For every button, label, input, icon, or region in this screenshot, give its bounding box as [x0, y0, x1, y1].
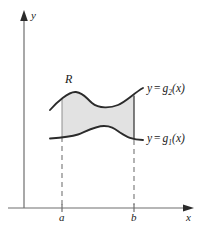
x-axis-label: x [186, 212, 191, 223]
tick-label-b: b [131, 212, 137, 223]
upper-curve-label-arg: (x) [172, 82, 185, 94]
y-axis-arrowhead [20, 10, 28, 21]
y-axis-label: y [31, 10, 36, 21]
region-between-curves-figure: y x a b R y=g2(x) y=g1(x) [0, 0, 199, 231]
tick-label-a: a [59, 212, 65, 223]
shaded-region-R [62, 92, 134, 140]
lower-curve-label-arg: (x) [172, 132, 185, 144]
upper-curve-label: y=g2(x) [147, 83, 185, 97]
lower-curve-label-equals: = [152, 132, 163, 144]
region-label-R: R [65, 73, 72, 85]
figure-canvas [0, 0, 199, 231]
upper-curve-label-equals: = [152, 82, 163, 94]
lower-curve-label: y=g1(x) [147, 133, 185, 147]
